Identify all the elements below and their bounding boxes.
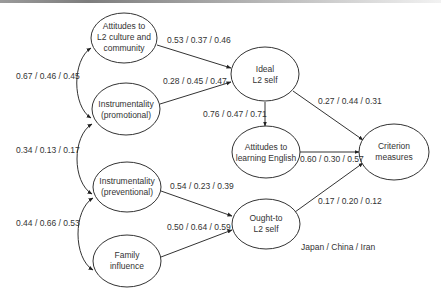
edge-culture-to-ideal [157, 45, 231, 68]
edge-labels: 0.53 / 0.37 / 0.46 0.28 / 0.45 / 0.47 0.… [16, 35, 382, 252]
svg-text:L2 self: L2 self [252, 75, 278, 85]
node-ideal-l2-self: Ideal L2 self [231, 47, 299, 101]
svg-text:L2 self: L2 self [253, 224, 279, 234]
label-promotional-to-ideal: 0.28 / 0.45 / 0.47 [163, 76, 227, 86]
corr-arrow-preventional-family [78, 198, 93, 270]
label-corr-preventional-family: 0.44 / 0.66 / 0.53 [16, 218, 80, 228]
svg-text:L2 culture and: L2 culture and [97, 32, 151, 42]
svg-text:Attitudes to: Attitudes to [103, 21, 146, 31]
edge-preventional-to-ought [161, 191, 232, 216]
sem-diagram: Attitudes to L2 culture and community In… [0, 0, 441, 297]
node-ought-to-l2-self: Ought-to L2 self [232, 199, 300, 249]
svg-text:Family: Family [114, 250, 140, 260]
label-ideal-to-criterion: 0.27 / 0.44 / 0.31 [318, 96, 382, 106]
label-corr-promotional-preventional: 0.34 / 0.13 / 0.17 [16, 145, 80, 155]
svg-text:Criterion: Criterion [378, 141, 410, 151]
legend-countries: Japan / China / Iran [301, 242, 375, 252]
edge-family-to-ought [161, 230, 232, 257]
label-corr-culture-promotional: 0.67 / 0.46 / 0.45 [16, 71, 80, 81]
corr-arrow-culture-promotional [77, 48, 91, 118]
node-criterion-measures: Criterion measures [359, 124, 429, 180]
svg-text:community: community [103, 43, 145, 53]
label-family-to-ought: 0.50 / 0.64 / 0.59 [167, 222, 231, 232]
svg-text:measures: measures [375, 152, 412, 162]
svg-text:Ideal: Ideal [256, 64, 275, 74]
node-family-influence: Family influence [93, 235, 161, 287]
corr-arrow-promotional-preventional [77, 124, 92, 194]
label-ideal-to-attitudes-english: 0.76 / 0.47 / 0.71 [203, 109, 267, 119]
label-preventional-to-ought: 0.54 / 0.23 / 0.39 [170, 181, 234, 191]
svg-text:(promotional): (promotional) [101, 110, 151, 120]
svg-text:influence: influence [110, 261, 144, 271]
svg-text:Ought-to: Ought-to [249, 213, 282, 223]
label-culture-to-ideal: 0.53 / 0.37 / 0.46 [167, 35, 231, 45]
node-attitudes-l2-culture: Attitudes to L2 culture and community [91, 13, 157, 63]
svg-text:Instrumentality: Instrumentality [99, 176, 155, 186]
label-ought-to-criterion: 0.17 / 0.20 / 0.12 [318, 196, 382, 206]
svg-text:Instrumentality: Instrumentality [98, 99, 154, 109]
svg-text:Attitudes to: Attitudes to [245, 142, 288, 152]
node-attitudes-learning-english: Attitudes to learning English [232, 126, 300, 178]
node-instrumentality-preventional: Instrumentality (preventional) [93, 162, 161, 212]
node-instrumentality-promotional: Instrumentality (promotional) [92, 83, 160, 135]
svg-text:learning English: learning English [236, 153, 297, 163]
label-attitudes-english-to-criterion: 0.60 / 0.30 / 0.57 [300, 154, 364, 164]
svg-text:(preventional): (preventional) [101, 187, 153, 197]
